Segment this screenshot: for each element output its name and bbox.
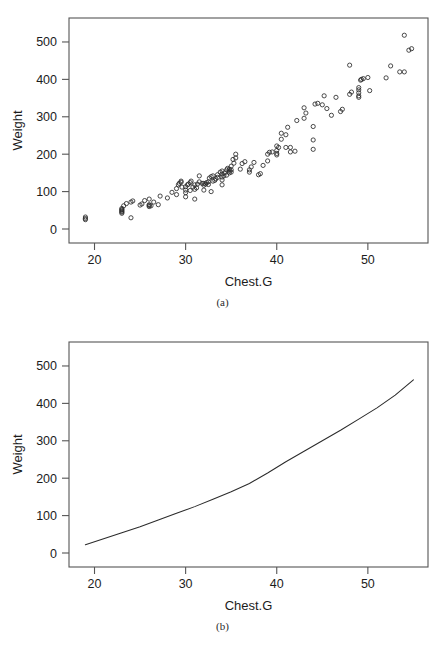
- data-point: [325, 106, 329, 110]
- data-point: [366, 75, 370, 79]
- x-axis-title: Chest.G: [225, 598, 273, 613]
- panel-b-caption: (b): [0, 620, 445, 632]
- data-point: [197, 174, 201, 178]
- y-tick-label-200: 200: [36, 148, 57, 162]
- data-point: [311, 147, 315, 151]
- x-tick-label-50: 50: [361, 577, 375, 591]
- data-point: [209, 189, 213, 193]
- data-point: [348, 63, 352, 67]
- data-point: [329, 113, 333, 117]
- data-point: [165, 196, 169, 200]
- x-tick-label-40: 40: [270, 577, 284, 591]
- data-point: [252, 160, 256, 164]
- data-point: [302, 106, 306, 110]
- y-tick-label-300: 300: [36, 434, 57, 448]
- y-tick-label-300: 300: [36, 110, 57, 124]
- data-point: [147, 197, 151, 201]
- y-axis-title: Weight: [10, 434, 25, 475]
- data-point: [295, 118, 299, 122]
- data-point: [368, 89, 372, 93]
- data-point: [174, 192, 178, 196]
- x-tick-label-30: 30: [179, 253, 193, 267]
- data-point: [402, 33, 406, 37]
- data-point: [293, 149, 297, 153]
- data-point: [311, 138, 315, 142]
- data-point: [288, 150, 292, 154]
- y-tick-label-100: 100: [36, 509, 57, 523]
- x-tick-label-50: 50: [361, 253, 375, 267]
- figure-panel-a: 010020030040050020304050Chest.GWeight: [0, 0, 445, 320]
- data-point: [320, 103, 324, 107]
- y-tick-label-400: 400: [36, 397, 57, 411]
- data-point: [302, 116, 306, 120]
- data-point: [124, 201, 128, 205]
- y-tick-label-0: 0: [50, 223, 57, 237]
- data-point: [402, 70, 406, 74]
- y-tick-label-0: 0: [50, 547, 57, 561]
- data-point: [202, 188, 206, 192]
- data-point: [304, 111, 308, 115]
- y-tick-label-200: 200: [36, 472, 57, 486]
- data-point: [311, 124, 315, 128]
- y-tick-label-500: 500: [36, 359, 57, 373]
- data-point: [286, 125, 290, 129]
- data-point: [129, 216, 133, 220]
- y-tick-label-100: 100: [36, 185, 57, 199]
- x-tick-label-20: 20: [88, 577, 102, 591]
- data-point: [270, 150, 274, 154]
- line-plot-chest-weight: 010020030040050020304050Chest.GWeight: [0, 320, 445, 617]
- data-point: [284, 145, 288, 149]
- data-point: [238, 167, 242, 171]
- data-point: [398, 70, 402, 74]
- data-point: [158, 194, 162, 198]
- scatter-plot-chest-weight: 010020030040050020304050Chest.GWeight: [0, 0, 445, 290]
- data-point: [170, 190, 174, 194]
- data-point: [279, 137, 283, 141]
- data-point: [279, 131, 283, 135]
- data-point: [143, 198, 147, 202]
- y-tick-label-400: 400: [36, 73, 57, 87]
- panel-a-caption: (a): [0, 296, 445, 308]
- scatter-points-group: [83, 33, 413, 222]
- data-point: [266, 159, 270, 163]
- data-point: [322, 94, 326, 98]
- data-point: [284, 133, 288, 137]
- fitted-curve: [85, 380, 413, 545]
- data-point: [152, 200, 156, 204]
- data-point: [156, 203, 160, 207]
- data-point: [316, 101, 320, 105]
- data-point: [220, 183, 224, 187]
- data-point: [193, 197, 197, 201]
- data-point: [334, 95, 338, 99]
- y-tick-label-500: 500: [36, 35, 57, 49]
- data-point: [261, 163, 265, 167]
- data-point: [288, 145, 292, 149]
- x-axis-title: Chest.G: [225, 274, 273, 289]
- figure-panel-b: 010020030040050020304050Chest.GWeight: [0, 320, 445, 647]
- x-tick-label-20: 20: [88, 253, 102, 267]
- x-tick-label-30: 30: [179, 577, 193, 591]
- data-point: [389, 64, 393, 68]
- y-axis-title: Weight: [10, 110, 25, 151]
- data-point: [313, 102, 317, 106]
- data-point: [184, 195, 188, 199]
- plot-frame: [69, 342, 428, 567]
- x-tick-label-40: 40: [270, 253, 284, 267]
- data-point: [384, 76, 388, 80]
